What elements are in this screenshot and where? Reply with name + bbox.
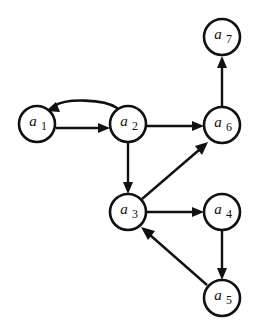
node-a2-label: a [120, 113, 128, 129]
node-a7-label: a [214, 26, 222, 42]
node-a1[interactable]: a 1 [19, 106, 55, 142]
node-a1-circle[interactable] [19, 106, 55, 142]
node-a5-label: a [214, 287, 222, 303]
edge-a3-to-a6-line [142, 150, 199, 199]
node-a6-circle[interactable] [204, 107, 240, 143]
node-a3-label: a [120, 201, 128, 217]
node-a5-subscript: 5 [226, 293, 232, 307]
node-a7-circle[interactable] [204, 19, 240, 55]
edge-a4-to-a5 [217, 231, 227, 280]
node-a5[interactable]: a 5 [204, 280, 240, 316]
node-a7-subscript: 7 [226, 32, 232, 46]
edge-a6-to-a7 [217, 56, 227, 106]
node-a2[interactable]: a 2 [110, 106, 146, 142]
edge-a2-to-a3 [123, 143, 133, 194]
edge-a1-to-a2 [56, 123, 110, 133]
edge-a5-to-a3 [141, 227, 207, 285]
edge-a2-to-a1 [46, 101, 117, 112]
node-a4-label: a [214, 201, 222, 217]
node-a1-subscript: 1 [41, 119, 47, 133]
node-a7[interactable]: a 7 [204, 19, 240, 55]
node-a6-label: a [214, 114, 222, 130]
edge-a2-to-a1-curve [54, 101, 117, 108]
node-a3[interactable]: a 3 [110, 194, 146, 230]
edge-a3-to-a6 [142, 142, 208, 199]
node-a1-label: a [29, 113, 37, 129]
node-a6-subscript: 6 [226, 120, 232, 134]
node-a4-circle[interactable] [204, 194, 240, 230]
node-a3-circle[interactable] [110, 194, 146, 230]
node-a2-subscript: 2 [132, 119, 138, 133]
edge-a1-to-a2-arrowhead [98, 123, 110, 133]
node-a6[interactable]: a 6 [204, 107, 240, 143]
edge-a3-to-a4 [147, 207, 204, 217]
edge-a2-to-a3-arrowhead [123, 182, 133, 194]
node-a5-circle[interactable] [204, 280, 240, 316]
edge-a2-to-a6-arrowhead [192, 121, 204, 131]
edge-a3-to-a4-arrowhead [192, 207, 204, 217]
node-a4[interactable]: a 4 [204, 194, 240, 230]
node-a4-subscript: 4 [226, 207, 232, 221]
edge-a5-to-a3-line [150, 235, 207, 285]
node-a2-circle[interactable] [110, 106, 146, 142]
node-a3-subscript: 3 [132, 207, 138, 221]
graph-canvas: a 1 a 2 a 3 a 4 a 5 a 6 [0, 0, 257, 327]
edge-a2-to-a6 [147, 121, 204, 131]
edge-a4-to-a5-arrowhead [217, 268, 227, 280]
directed-graph-figure: a 1 a 2 a 3 a 4 a 5 a 6 [0, 0, 257, 327]
edge-a6-to-a7-arrowhead [217, 56, 227, 68]
